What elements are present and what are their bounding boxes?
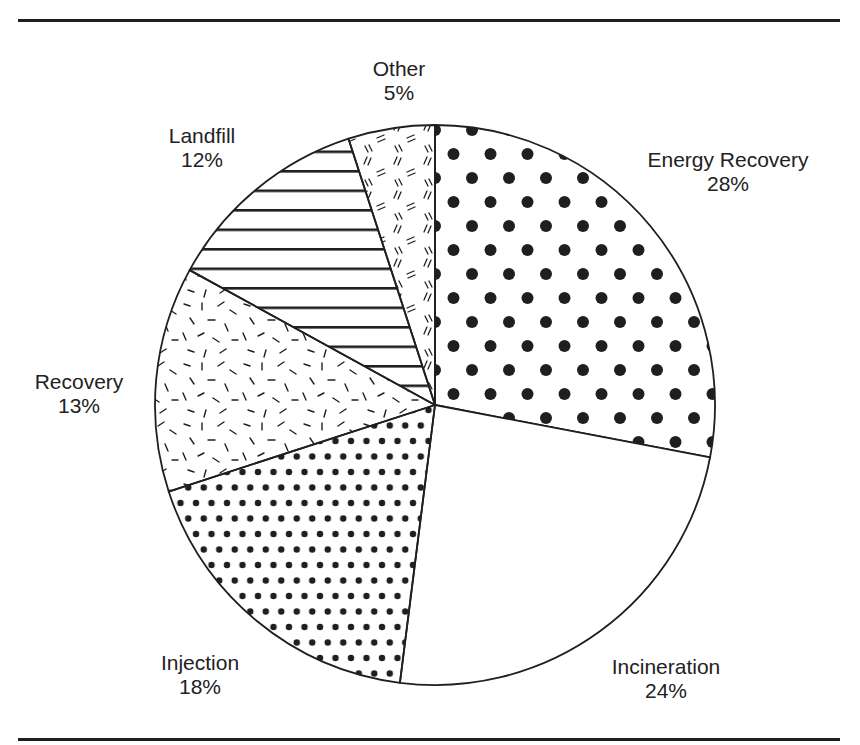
label-recovery-name: Recovery [24, 370, 134, 394]
label-incineration-pct: 24% [596, 679, 736, 703]
label-energy-recovery: Energy Recovery 28% [628, 148, 828, 196]
label-recovery-pct: 13% [24, 394, 134, 418]
label-injection: Injection 18% [145, 651, 255, 699]
label-injection-pct: 18% [145, 675, 255, 699]
label-incineration: Incineration 24% [596, 655, 736, 703]
label-landfill-pct: 12% [152, 148, 252, 172]
pie-slices [155, 125, 715, 685]
label-incineration-name: Incineration [596, 655, 736, 679]
label-landfill-name: Landfill [152, 124, 252, 148]
label-other-pct: 5% [359, 81, 439, 105]
bottom-rule [18, 738, 840, 741]
label-energy-recovery-name: Energy Recovery [628, 148, 828, 172]
label-landfill: Landfill 12% [152, 124, 252, 172]
label-recovery: Recovery 13% [24, 370, 134, 418]
label-energy-recovery-pct: 28% [628, 172, 828, 196]
label-other: Other 5% [359, 57, 439, 105]
label-other-name: Other [359, 57, 439, 81]
label-injection-name: Injection [145, 651, 255, 675]
